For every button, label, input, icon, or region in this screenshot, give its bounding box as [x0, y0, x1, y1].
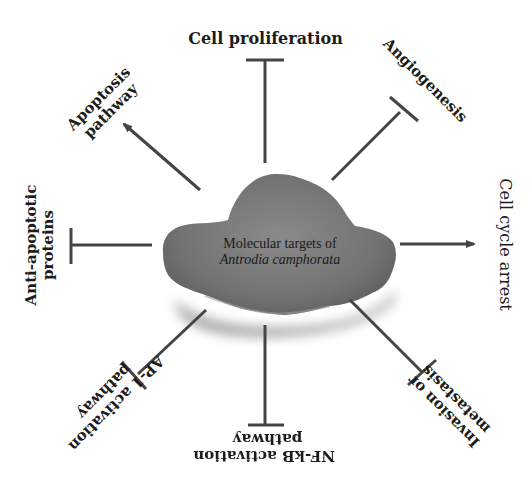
connector-apoptosis: [124, 124, 200, 190]
connector-angiogenesis: [332, 97, 418, 180]
label-cell-proliferation: Cell proliferation: [183, 30, 348, 47]
diagram-canvas: Molecular targets of Antrodia camphorata…: [0, 0, 529, 493]
connector-cell-proliferation: [246, 60, 284, 163]
center-label-species: Antrodia camphorata: [185, 252, 375, 268]
connector-nfkb: [248, 325, 284, 425]
center-label: Molecular targets of Antrodia camphorata: [185, 236, 375, 268]
label-anti-apoptotic: Anti-apoptotic proteins: [23, 180, 57, 310]
label-nfkb-pathway: NF-kB activation pathway: [200, 430, 335, 464]
center-label-line1: Molecular targets of: [185, 236, 375, 252]
label-cell-cycle-arrest: Cell cycle arrest: [497, 170, 514, 320]
connector-anti-apoptotic: [71, 228, 152, 264]
